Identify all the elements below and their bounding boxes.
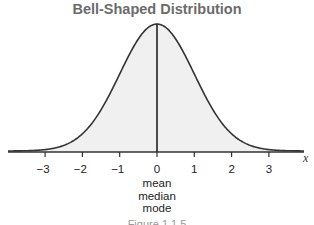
curve-area (8, 24, 304, 152)
x-tick-label: 1 (184, 163, 204, 175)
x-tick-label: 0 (147, 163, 167, 175)
x-tick-label: −3 (33, 163, 53, 175)
center-annotations: mean median mode (127, 177, 187, 215)
x-tick-label: 3 (259, 163, 279, 175)
x-tick-label: 2 (222, 163, 242, 175)
annotation-median: median (127, 190, 187, 203)
figure-caption: Figure 1.1.5 (0, 218, 314, 225)
x-axis-label: x (303, 151, 308, 166)
x-tick-label: −2 (70, 163, 90, 175)
annotation-mode: mode (127, 202, 187, 215)
x-tick-label: −1 (108, 163, 128, 175)
annotation-mean: mean (127, 177, 187, 190)
